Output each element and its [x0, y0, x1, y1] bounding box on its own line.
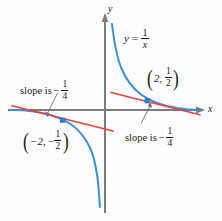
tangent-line-at-2	[111, 93, 200, 115]
point-label-neg-y-numerator: 1	[54, 129, 61, 141]
curve-equation-lhs: y	[124, 32, 129, 44]
point-label-neg-y-denominator: 2	[54, 141, 61, 152]
y-axis-label: y	[108, 4, 112, 14]
point-label-neg-open-paren: (	[23, 132, 29, 151]
point-label-y-fraction: 1 2	[165, 66, 172, 88]
point-label-contents: 2, 1 2	[154, 67, 172, 89]
leader-line-right	[141, 103, 152, 124]
slope-annotation-left-text: slope is	[20, 85, 52, 96]
x-axis-label: x	[208, 104, 212, 114]
curve-equation-equals: =	[132, 32, 138, 44]
point-label-x-value: 2,	[154, 73, 162, 84]
plot-canvas	[0, 0, 222, 221]
slope-annotation-right-text: slope is	[125, 132, 157, 143]
point-label-neg-contents: −2, − 1 2	[30, 130, 62, 152]
slope-annotation-left: slope is− 1 4	[20, 80, 69, 102]
curve-equation-label: y = 1 x	[124, 28, 149, 51]
point-label-open-paren: (	[147, 69, 153, 88]
point-label-neg2-neghalf: ( −2, − 1 2 )	[22, 130, 70, 152]
slope-annotation-right-numerator: 1	[166, 126, 173, 138]
slope-annotation-left-denominator: 4	[61, 91, 68, 102]
slope-annotation-left-numerator: 1	[61, 79, 68, 91]
hyperbola-tangent-figure: y x y = 1 x ( 2, 1 2 ) ( −2, − 1 2	[0, 0, 222, 221]
slope-annotation-right-sign: −	[159, 132, 165, 143]
point-label-neg-x-value: −2,	[30, 136, 46, 147]
point-label-neg-y-fraction: 1 2	[54, 129, 61, 151]
slope-annotation-right-fraction: 1 4	[166, 126, 173, 148]
marker-point-2	[145, 98, 150, 103]
slope-annotation-left-fraction: 1 4	[61, 79, 68, 101]
point-label-close-paren: )	[173, 69, 179, 88]
slope-annotation-right-denominator: 4	[166, 138, 173, 149]
point-label-neg-y-sign: −	[48, 136, 54, 147]
point-label-2-half: ( 2, 1 2 )	[146, 67, 180, 89]
point-label-y-numerator: 1	[165, 66, 172, 78]
point-label-y-denominator: 2	[165, 78, 172, 89]
point-label-neg-close-paren: )	[63, 132, 69, 151]
curve-equation-numerator: 1	[141, 27, 148, 39]
y-axis-arrowhead	[102, 13, 109, 22]
curve-equation-fraction: 1 x	[141, 27, 148, 50]
slope-annotation-right: slope is− 1 4	[125, 127, 174, 149]
slope-annotation-left-sign: −	[54, 85, 60, 96]
marker-point-neg2	[60, 118, 65, 123]
curve-equation-denominator: x	[141, 39, 148, 50]
